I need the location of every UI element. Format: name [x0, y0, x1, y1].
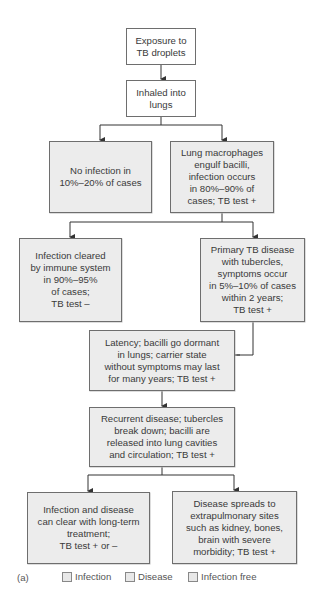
node-cleared: Infection cleared by immune system in 90…: [19, 238, 122, 322]
legend: (a) Infection Disease Infection free: [0, 571, 325, 587]
legend-item-infection-free: Infection free: [188, 571, 256, 582]
node-inhaled: Inhaled into lungs: [126, 80, 196, 117]
node-primary: Primary TB disease with tubercles, sympt…: [200, 238, 305, 322]
legend-swatch-icon: [188, 572, 198, 582]
node-treatment: Infection and disease can clear with lon…: [27, 492, 150, 564]
legend-label: Infection free: [201, 571, 256, 582]
node-no-infection: No infection in 10%–20% of cases: [49, 141, 152, 213]
legend-label: Disease: [138, 571, 173, 582]
node-macrophages: Lung macrophages engulf bacilli, infecti…: [170, 141, 274, 213]
legend-label: Infection: [75, 571, 111, 582]
legend-swatch-icon: [125, 572, 135, 582]
legend-item-disease: Disease: [125, 571, 173, 582]
node-recurrent: Recurrent disease; tubercles break down;…: [89, 407, 235, 467]
node-latency: Latency; bacilli go dormant in lungs; ca…: [89, 330, 235, 391]
panel-label: (a): [17, 572, 29, 583]
legend-swatch-icon: [62, 572, 72, 582]
legend-item-infection: Infection: [62, 571, 111, 582]
node-exposure: Exposure to TB droplets: [126, 28, 196, 65]
node-extrapulmonary: Disease spreads to extrapulmonary sites …: [172, 491, 297, 564]
